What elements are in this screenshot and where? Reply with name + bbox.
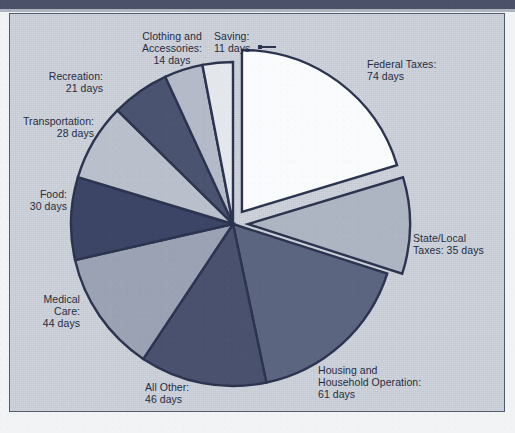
leader-line-saving (258, 46, 276, 48)
pie-chart-svg (0, 0, 515, 433)
screenshot-root: Federal Taxes: 74 days State/Local Taxes… (0, 0, 515, 433)
slice-label-all-other: All Other: 46 days (145, 381, 189, 405)
slice-label-recreation: Recreation: 21 days (28, 70, 103, 94)
pie-slice-group (71, 50, 410, 386)
slice-label-medical-care: Medical Care: 44 days (8, 293, 80, 330)
slice-label-food: Food: 30 days (5, 188, 67, 212)
slice-label-federal-taxes: Federal Taxes: 74 days (367, 58, 436, 82)
slice-label-state-local-taxes: State/Local Taxes: 35 days (413, 232, 484, 256)
slice-label-clothing-accessories: Clothing and Accessories: 14 days (134, 30, 210, 67)
pie-chart: Federal Taxes: 74 days State/Local Taxes… (0, 0, 515, 433)
slice-label-housing: Housing and Household Operation: 61 days (318, 364, 421, 401)
slice-label-saving: Saving: 11 days (214, 30, 250, 54)
slice-label-transportation: Transportation: 28 days (4, 115, 94, 139)
